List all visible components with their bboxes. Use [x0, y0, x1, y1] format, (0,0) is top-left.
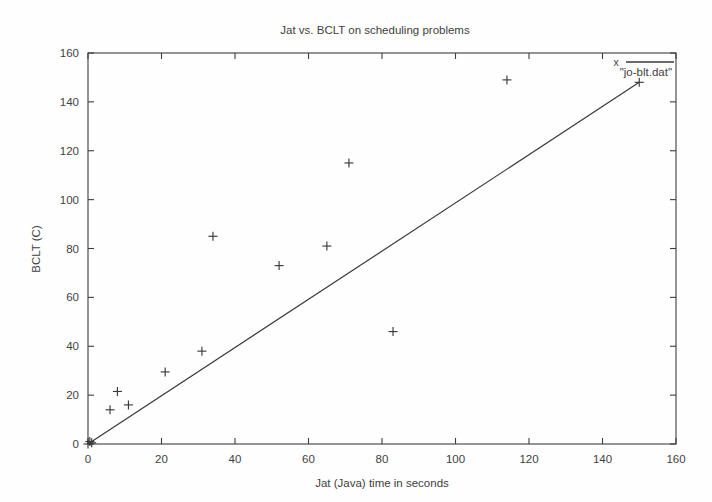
x-tick-label: 120 [519, 453, 538, 465]
y-tick-label: 140 [60, 96, 79, 108]
x-tick-label: 0 [85, 453, 91, 465]
legend-entry-label: "jo-blt.dat" [620, 66, 672, 78]
x-tick-label: 100 [446, 453, 465, 465]
x-axis-title: Jat (Java) time in seconds [315, 477, 449, 489]
y-tick-label: 20 [66, 389, 79, 401]
chart-title: Jat vs. BCLT on scheduling problems [280, 24, 470, 36]
y-tick-label: 40 [66, 340, 79, 352]
chart-container: Jat vs. BCLT on scheduling problems 0204… [0, 0, 712, 502]
x-tick-label: 160 [666, 453, 685, 465]
y-tick-label: 80 [66, 243, 79, 255]
y-tick-label: 60 [66, 291, 79, 303]
y-tick-label: 160 [60, 47, 79, 59]
x-tick-label: 140 [593, 453, 612, 465]
y-axis-title: BCLT (C) [30, 225, 42, 273]
y-tick-label: 0 [73, 438, 79, 450]
x-tick-label: 80 [376, 453, 389, 465]
scatter-plot: Jat vs. BCLT on scheduling problems 0204… [0, 0, 712, 502]
legend-marker-x-icon: x [613, 56, 619, 68]
x-tick-label: 20 [155, 453, 168, 465]
x-tick-label: 60 [302, 453, 315, 465]
x-tick-label: 40 [229, 453, 242, 465]
y-tick-label: 100 [60, 194, 79, 206]
plot-background [0, 0, 712, 502]
y-tick-label: 120 [60, 145, 79, 157]
